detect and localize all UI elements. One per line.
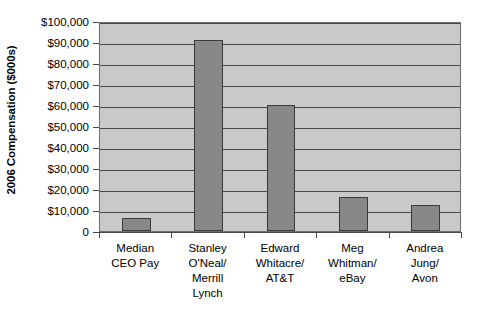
- x-axis-category-label-line: Andrea: [389, 241, 461, 256]
- y-axis-tick-label: $40,000: [47, 142, 89, 154]
- x-axis-tick-mark: [316, 232, 317, 238]
- x-axis-category-label: MedianCEO Pay: [99, 241, 171, 271]
- bar: [194, 40, 223, 231]
- gridline: [100, 23, 460, 24]
- x-axis-line: [93, 232, 462, 233]
- y-axis-tick-label: $10,000: [47, 205, 89, 217]
- x-axis-category-label: StanleyO'Neal/MerrillLynch: [171, 241, 243, 301]
- y-axis-tick-label: 0: [83, 226, 89, 238]
- y-axis-tick-label: $30,000: [47, 163, 89, 175]
- x-axis-tick-mark: [171, 232, 172, 238]
- y-axis-tick-label: $60,000: [47, 100, 89, 112]
- x-axis-category-label-line: AT&T: [244, 271, 316, 286]
- y-axis-tick-label: $50,000: [47, 121, 89, 133]
- x-axis-category-label-line: Median: [99, 241, 171, 256]
- x-axis-category-label-line: Edward: [244, 241, 316, 256]
- x-axis-category-labels: MedianCEO PayStanleyO'Neal/MerrillLynchE…: [99, 241, 461, 313]
- x-axis-category-label-line: Whitman/: [316, 256, 388, 271]
- y-axis-title-label: 2006 Compensation ($000s): [5, 46, 17, 195]
- x-axis-category-label-line: Jung/: [389, 256, 461, 271]
- y-axis-tick-label: $100,000: [41, 16, 89, 28]
- y-axis-title: 2006 Compensation ($000s): [0, 0, 22, 240]
- bar: [411, 205, 440, 231]
- y-axis-tick-label: $70,000: [47, 79, 89, 91]
- x-axis-category-label-line: eBay: [316, 271, 388, 286]
- y-axis-tick-labels: $100,000$90,000$80,000$70,000$60,000$50,…: [22, 22, 94, 232]
- bar-chart: 2006 Compensation ($000s) $100,000$90,00…: [0, 0, 484, 316]
- x-axis-category-label-line: O'Neal/: [171, 256, 243, 271]
- x-axis-category-label-line: Lynch: [171, 286, 243, 301]
- x-axis-tick-mark: [99, 232, 100, 238]
- y-axis-tick-label: $90,000: [47, 37, 89, 49]
- gridline: [100, 65, 460, 66]
- bar: [267, 105, 296, 231]
- y-axis-tick-label: $80,000: [47, 58, 89, 70]
- x-axis-category-label-line: Whitacre/: [244, 256, 316, 271]
- x-axis-tick-mark: [389, 232, 390, 238]
- x-axis-category-label-line: Meg: [316, 241, 388, 256]
- x-axis-category-label-line: CEO Pay: [99, 256, 171, 271]
- x-axis-tick-mark: [244, 232, 245, 238]
- bar: [339, 197, 368, 231]
- x-axis-category-label-line: Avon: [389, 271, 461, 286]
- y-axis-tick-label: $20,000: [47, 184, 89, 196]
- x-axis-category-label-line: Merrill: [171, 271, 243, 286]
- bar: [122, 218, 151, 231]
- x-axis-category-label: EdwardWhitacre/AT&T: [244, 241, 316, 286]
- x-axis-tick-mark: [461, 232, 462, 238]
- x-axis-category-label: AndreaJung/Avon: [389, 241, 461, 286]
- x-axis-category-label-line: Stanley: [171, 241, 243, 256]
- gridline: [100, 86, 460, 87]
- gridline: [100, 44, 460, 45]
- plot-area: [99, 22, 461, 232]
- x-axis-category-label: MegWhitman/eBay: [316, 241, 388, 286]
